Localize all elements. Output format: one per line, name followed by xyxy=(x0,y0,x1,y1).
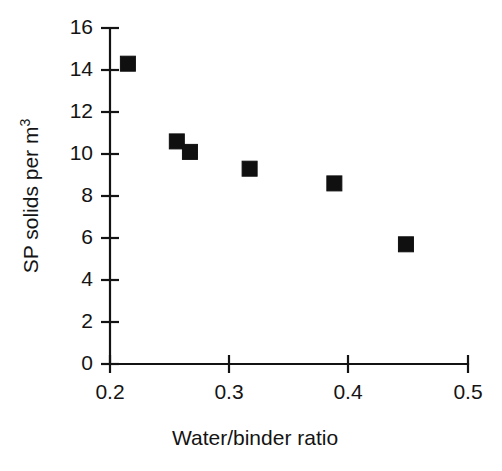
x-axis-tick-labels: 0.2 0.3 0.4 0.5 xyxy=(95,380,482,403)
y-axis-tick-labels: 0 2 4 6 8 10 12 14 16 xyxy=(70,15,94,374)
x-tick-label-0.5: 0.5 xyxy=(453,380,482,403)
y-tick-label-8: 8 xyxy=(81,183,93,206)
chart-canvas: 0 2 4 6 8 10 12 14 16 0.2 0.3 0.4 0.5 Wa… xyxy=(0,0,502,471)
x-tick-label-0.2: 0.2 xyxy=(95,380,124,403)
y-axis-title-superscript: 3 xyxy=(17,119,33,127)
data-point xyxy=(242,161,257,176)
y-axis-title: SP solids per m3 xyxy=(17,119,42,274)
y-tick-label-14: 14 xyxy=(70,57,94,80)
x-axis-title: Water/binder ratio xyxy=(172,426,338,449)
y-tick-label-6: 6 xyxy=(81,225,93,248)
data-point xyxy=(398,237,413,252)
y-tick-label-4: 4 xyxy=(81,267,93,290)
y-axis-title-group: SP solids per m3 xyxy=(17,119,42,274)
data-point-group xyxy=(120,56,413,252)
scatter-chart: 0 2 4 6 8 10 12 14 16 0.2 0.3 0.4 0.5 Wa… xyxy=(0,0,502,471)
data-point xyxy=(327,176,342,191)
y-tick-label-2: 2 xyxy=(81,309,93,332)
y-tick-label-12: 12 xyxy=(70,99,93,122)
data-point xyxy=(120,56,135,71)
x-tick-label-0.3: 0.3 xyxy=(214,380,243,403)
y-tick-label-10: 10 xyxy=(70,141,93,164)
y-axis-title-main: SP solids per m xyxy=(19,127,42,274)
data-point xyxy=(182,144,197,159)
y-tick-label-0: 0 xyxy=(81,351,93,374)
y-tick-label-16: 16 xyxy=(70,15,93,38)
x-tick-label-0.4: 0.4 xyxy=(333,380,363,403)
